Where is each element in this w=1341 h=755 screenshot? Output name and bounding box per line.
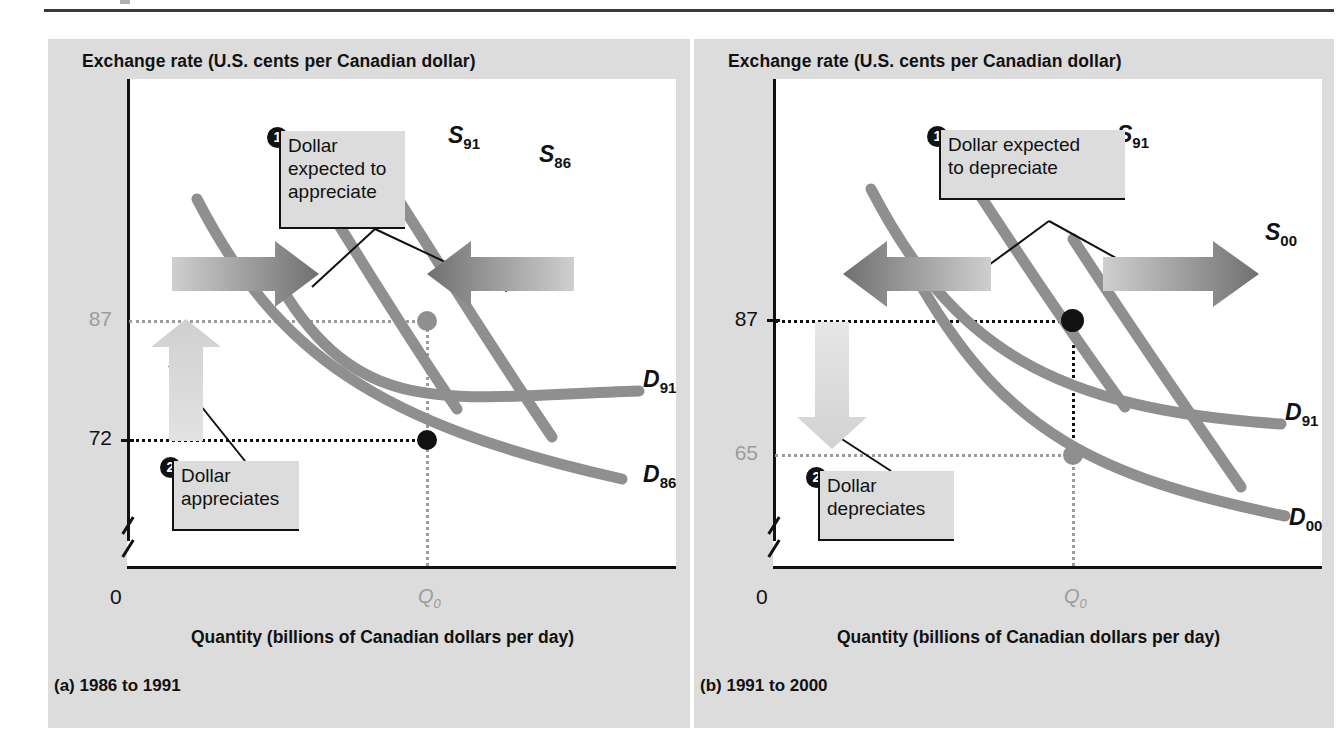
leader-line-2-a [169,366,245,461]
quantity-label-b: Q0 [1064,585,1087,611]
callout-line: Dollar [181,464,289,487]
leader-line-1-left-a [312,229,375,287]
equilibrium-dot-2000-b [1063,445,1083,465]
curve-d86-a [197,199,622,479]
origin-label-b: 0 [756,585,768,609]
leader-line-1-right-b [1049,221,1163,284]
equilibrium-dot-1991-a [417,311,437,331]
quantity-label-a: Q0 [418,585,441,611]
panel-caption-b: (b) 1991 to 2000 [700,676,828,696]
panel-a: Exchange rate (U.S. cents per Canadian d… [48,39,690,728]
x-axis-title-a: Quantity (billions of Canadian dollars p… [191,627,574,648]
equilibrium-dot-1986-a [417,430,437,450]
y-tick-87-b [767,319,780,322]
figure-top-rule [44,9,1334,12]
price-move-arrow-up-a [151,319,221,441]
y-tick-label-65-b: 65 [712,441,758,465]
curve-label-d86-a: D86 [643,461,676,491]
panel-b: Exchange rate (U.S. cents per Canadian d… [694,39,1334,728]
plot-area-a: S91 S86 D91 D86 1 Dollar expected to app… [127,79,676,569]
shift-arrow-demand-right-a [172,241,319,307]
leader-line-1-right-a [375,229,507,291]
y-tick-label-87-b: 87 [712,307,758,331]
curve-label-d91-b: D91 [1285,399,1318,429]
x-axis-title-b: Quantity (billions of Canadian dollars p… [837,627,1220,648]
curve-label-s91-a: S91 [448,122,480,152]
callout-line: Dollar expected [948,133,1115,156]
guide-line-87-b [775,320,1073,323]
curve-label-s00-b: S00 [1265,219,1297,249]
leader-line-2-b [811,419,891,471]
y-axis-title-a: Exchange rate (U.S. cents per Canadian d… [82,51,476,72]
shift-arrow-supply-right-b [1103,241,1259,307]
curve-s00-b [1073,239,1241,487]
price-move-arrow-down-b [797,322,867,449]
axis-break-mark-lower [767,539,780,558]
guide-line-q0-lower-b [1072,456,1075,566]
x-axis-b [773,566,1322,569]
leader-line-1-left-b [967,221,1049,281]
y-axis-a [127,79,130,541]
callout-line: Dollar [288,134,395,157]
callout-line: expected to [288,157,395,180]
guide-line-q0-upper-b [1072,322,1075,456]
y-tick-label-87-a: 87 [66,307,112,331]
y-axis-b [773,79,776,541]
callout-line: depreciates [827,497,944,520]
guide-line-72-a [129,439,427,442]
curve-label-d91-a: D91 [643,366,676,396]
curve-d91-a [275,277,639,397]
y-tick-72-a [121,439,134,442]
curve-label-s86-a: S86 [539,141,571,171]
y-tick-label-72-a: 72 [66,426,112,450]
curve-d00-b [923,289,1285,516]
curve-label-d00-b: D00 [1289,504,1322,534]
callout-box-2-b: Dollar depreciates [818,471,954,541]
callout-box-1-a: Dollar expected to appreciate [279,131,405,229]
panel-caption-a: (a) 1986 to 1991 [54,676,181,696]
callout-line: appreciate [288,180,395,203]
origin-label-a: 0 [110,585,122,609]
axis-break-mark-lower [121,539,134,558]
guide-line-65-b [775,454,1073,457]
callout-box-2-a: Dollar appreciates [172,461,299,531]
callout-box-1-b: Dollar expected to depreciate [939,130,1125,200]
callout-line: appreciates [181,487,289,510]
shift-arrow-demand-left-b [843,241,991,307]
plot-area-b: S91 S00 D91 D00 1 Dollar expected to dep… [773,79,1322,569]
curve-d91-b [871,189,1281,424]
equilibrium-dot-1991-b [1061,309,1084,332]
callout-line: to depreciate [948,156,1115,179]
callout-line: Dollar [827,474,944,497]
y-axis-title-b: Exchange rate (U.S. cents per Canadian d… [728,51,1122,72]
page-header-fragment [120,0,130,4]
x-axis-a [127,566,676,569]
guide-line-87-a [129,320,427,323]
shift-arrow-supply-left-a [427,241,574,307]
